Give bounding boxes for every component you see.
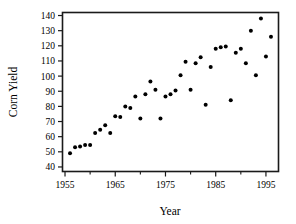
- data-point: [133, 95, 137, 99]
- data-point: [153, 88, 157, 92]
- scatter-plot-svg: 405060708090100110120130140 195519651975…: [0, 0, 296, 224]
- y-tick-label: 40: [46, 162, 56, 172]
- data-point: [189, 88, 193, 92]
- data-point: [123, 104, 127, 108]
- data-point: [163, 95, 167, 99]
- y-axis-title: Corn Yield: [7, 67, 19, 118]
- data-point: [264, 54, 268, 58]
- data-point: [234, 51, 238, 55]
- y-tick-label: 130: [41, 26, 56, 36]
- data-point: [199, 55, 203, 59]
- data-point: [68, 151, 72, 155]
- data-point: [194, 61, 198, 65]
- data-point: [169, 92, 173, 96]
- data-point: [219, 45, 223, 49]
- x-tick-label: 1985: [206, 180, 225, 190]
- data-point: [78, 145, 82, 149]
- y-tick-label: 110: [41, 56, 55, 66]
- data-point: [143, 92, 147, 96]
- x-tick-label: 1995: [256, 180, 275, 190]
- data-point: [214, 47, 218, 51]
- y-tick-label: 70: [46, 117, 56, 127]
- data-point: [158, 117, 162, 121]
- x-tick-label: 1965: [106, 180, 125, 190]
- data-point: [103, 123, 107, 127]
- y-tick-label: 120: [41, 41, 56, 51]
- data-point: [148, 79, 152, 83]
- data-point: [138, 117, 142, 121]
- data-point: [259, 17, 263, 21]
- data-point: [83, 143, 87, 147]
- y-tick-label: 80: [46, 102, 56, 112]
- data-point: [254, 73, 258, 77]
- data-point: [98, 128, 102, 132]
- data-point: [249, 29, 253, 33]
- data-point: [93, 131, 97, 135]
- data-point: [113, 114, 117, 118]
- data-point: [88, 143, 92, 147]
- y-tick-label: 50: [46, 147, 56, 157]
- data-point: [269, 35, 273, 39]
- data-point: [244, 61, 248, 65]
- y-tick-label: 140: [41, 11, 56, 21]
- data-point: [229, 98, 233, 102]
- chart-figure: 405060708090100110120130140 195519651975…: [0, 0, 296, 224]
- data-point: [118, 115, 122, 119]
- data-point: [174, 88, 178, 92]
- y-tick-label: 90: [46, 87, 56, 97]
- data-point: [128, 106, 132, 110]
- x-tick-label: 1975: [156, 180, 175, 190]
- data-point: [184, 60, 188, 64]
- data-point: [108, 131, 112, 135]
- data-point: [224, 45, 228, 49]
- x-tick-label: 1955: [56, 180, 75, 190]
- data-point: [179, 73, 183, 77]
- data-point: [204, 103, 208, 107]
- y-tick-label: 60: [46, 132, 56, 142]
- y-tick-label: 100: [41, 72, 56, 82]
- data-point: [209, 65, 213, 69]
- data-point: [73, 145, 77, 149]
- x-axis-title: Year: [159, 205, 180, 217]
- data-point: [239, 47, 243, 51]
